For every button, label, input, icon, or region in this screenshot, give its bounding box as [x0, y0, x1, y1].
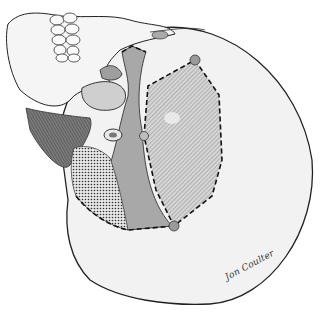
- upper-landmark: [190, 55, 200, 65]
- occipital-condyle: [104, 129, 122, 141]
- middle-landmark: [140, 132, 149, 141]
- lower-landmark: [169, 221, 179, 231]
- foramen: [152, 31, 168, 39]
- skull-illustration: [0, 0, 320, 314]
- highlight-spot: [164, 112, 180, 124]
